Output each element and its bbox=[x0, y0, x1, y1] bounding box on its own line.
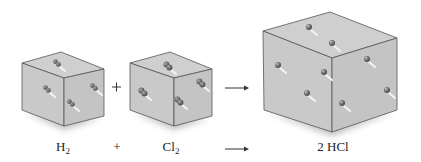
label-2hcl: 2 HCl bbox=[317, 139, 348, 155]
reaction-arrow-equation bbox=[225, 147, 249, 152]
cube-face-right bbox=[174, 69, 212, 126]
cl2-container bbox=[130, 52, 212, 130]
reaction-arrow-top bbox=[225, 86, 249, 91]
plus-operator-top bbox=[112, 83, 121, 92]
hcl-container bbox=[263, 12, 397, 136]
cube-face-right bbox=[64, 69, 104, 126]
label-cl2: Cl2 bbox=[163, 139, 180, 155]
reaction-diagram bbox=[0, 0, 421, 162]
h2-container bbox=[22, 52, 104, 130]
label-plus: + bbox=[113, 139, 120, 155]
label-h2: H2 bbox=[56, 139, 70, 155]
